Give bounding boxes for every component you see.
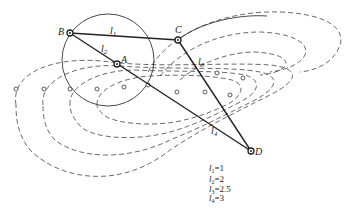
- label-C: C: [175, 24, 182, 35]
- curve-markers: [14, 71, 245, 97]
- label-B: B: [58, 26, 64, 37]
- coupler-solid-curve: [178, 16, 267, 40]
- link-l1: [70, 33, 178, 40]
- label-D: D: [254, 146, 263, 157]
- legend-l1: l1=1: [209, 163, 224, 174]
- label-l3: l3: [198, 56, 205, 69]
- label-A: A: [120, 54, 128, 65]
- legend: l1=1 l2=2 l3=2.5 l4=3: [209, 163, 231, 204]
- linkage-diagram: B C A D l1 l2 l3 l4 l1=1 l2=2 l3=2.5 l4=…: [0, 0, 350, 214]
- crank-circle: [62, 14, 154, 106]
- links: [70, 33, 251, 151]
- legend-l4: l4=3: [209, 193, 225, 204]
- link-l2: [70, 33, 251, 151]
